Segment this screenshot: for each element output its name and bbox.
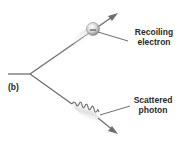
photon-label-line1: Scattered [131,95,175,105]
photon-trajectory-start [30,74,72,104]
photon-label-line2: photon [131,105,175,115]
electron-label-line2: electron [133,37,175,47]
electron-arrowhead-icon [108,13,118,21]
electron-label-line1: Recoiling [133,27,175,37]
compton-scattering-diagram [0,0,186,145]
scattered-photon-label: Scattered photon [131,95,175,115]
electron-trajectory [30,15,115,74]
recoiling-electron-label: Recoiling electron [133,27,175,47]
photon-leader-line [100,106,130,115]
electron-leader-line [98,32,128,41]
electron-icon [87,23,100,36]
panel-label: (b) [8,82,19,92]
